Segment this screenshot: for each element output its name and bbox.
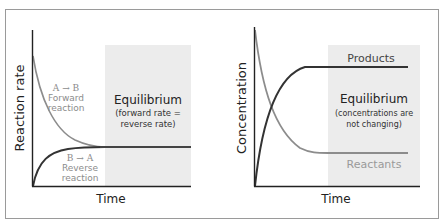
equilibrium-sub-left-2: reverse rate)	[120, 119, 175, 129]
equilibrium-sub-right-2: not changing)	[346, 120, 402, 129]
equilibrium-figure: Reaction rate Time A → B Forward reactio…	[0, 0, 444, 224]
x-axis-label-left: Time	[95, 192, 125, 206]
reverse-reaction-equation: B → A	[67, 153, 94, 163]
equilibrium-title-right: Equilibrium	[340, 92, 408, 106]
y-axis-label-left: Reaction rate	[12, 64, 27, 151]
reverse-reaction-label-1: Reverse	[62, 163, 99, 173]
forward-reaction-label-2: reaction	[48, 103, 85, 113]
concentration-chart: Concentration Time Products Reactants Eq…	[234, 27, 420, 206]
x-axis-label-right: Time	[320, 192, 350, 206]
forward-reaction-label-1: Forward	[48, 93, 84, 103]
equilibrium-sub-right-1: (concentrations are	[335, 109, 413, 118]
reverse-reaction-label-2: reaction	[62, 173, 99, 183]
reaction-rate-chart: Reaction rate Time A → B Forward reactio…	[12, 30, 191, 206]
products-label: Products	[347, 52, 395, 65]
y-axis-label-right: Concentration	[234, 62, 249, 154]
equilibrium-title-left: Equilibrium	[114, 93, 182, 107]
equilibrium-sub-left-1: (forward rate =	[115, 108, 181, 118]
reactants-label: Reactants	[347, 158, 402, 171]
forward-reaction-equation: A → B	[52, 83, 80, 93]
